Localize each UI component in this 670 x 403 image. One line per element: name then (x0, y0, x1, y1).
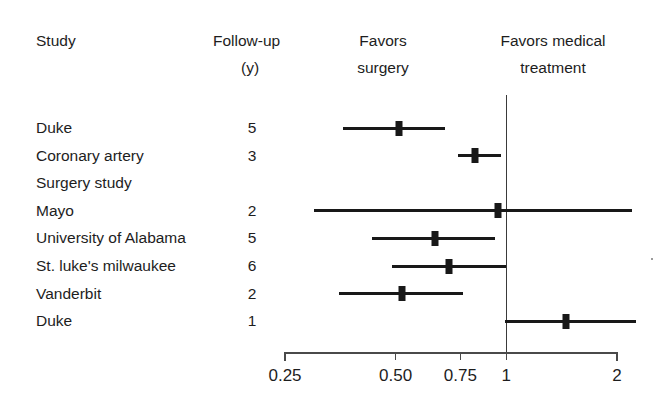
x-axis-tick-label: 0.50 (379, 367, 412, 384)
study-label: Coronary artery (36, 148, 144, 164)
followup-value: 5 (248, 230, 257, 246)
point-estimate-marker (471, 148, 478, 163)
scan-speck (651, 258, 653, 260)
confidence-interval-line (392, 265, 506, 268)
study-label: Duke (36, 313, 72, 329)
point-estimate-marker (398, 286, 405, 301)
x-axis-tick-label: 1 (502, 367, 511, 384)
x-axis-tick (460, 352, 462, 360)
study-label: St. luke's milwaukee (36, 258, 176, 274)
confidence-interval-line (505, 320, 636, 323)
study-label: Duke (36, 120, 72, 136)
point-estimate-marker (395, 121, 402, 136)
confidence-interval-line (458, 154, 501, 157)
study-label: Mayo (36, 203, 74, 219)
column-header-study: Study (36, 33, 76, 49)
annotation-favors-surgery-line2: surgery (357, 60, 409, 76)
x-axis-line (285, 352, 617, 354)
confidence-interval-line (343, 127, 445, 130)
annotation-favors-medical-line1: Favors medical (500, 33, 605, 49)
x-axis-tick (506, 352, 508, 360)
confidence-interval-line (372, 237, 495, 240)
followup-value: 3 (248, 148, 257, 164)
forest-plot-figure: Study Follow-up (y) Favors surgery Favor… (0, 0, 670, 403)
x-axis-tick (395, 352, 397, 360)
study-label: University of Alabama (36, 230, 186, 246)
column-header-followup-unit: (y) (241, 60, 259, 76)
point-estimate-marker (432, 231, 439, 246)
x-axis-tick (284, 352, 286, 361)
confidence-interval-line (339, 292, 463, 295)
followup-value: 6 (248, 258, 257, 274)
followup-value: 5 (248, 120, 257, 136)
annotation-favors-medical-line2: treatment (520, 60, 585, 76)
followup-value: 2 (248, 203, 257, 219)
followup-value: 1 (248, 313, 257, 329)
x-axis-tick-label: 0.75 (444, 367, 477, 384)
point-estimate-marker (446, 259, 453, 274)
column-header-followup: Follow-up (213, 33, 280, 49)
x-axis-tick (616, 352, 618, 361)
x-axis-tick-label: 0.25 (268, 367, 301, 384)
study-label-continuation: Surgery study (36, 175, 132, 191)
point-estimate-marker (495, 203, 502, 218)
followup-value: 2 (248, 286, 257, 302)
x-axis-tick-label: 2 (612, 367, 621, 384)
reference-line-null-effect (506, 95, 508, 352)
annotation-favors-surgery-line1: Favors (359, 33, 406, 49)
point-estimate-marker (562, 314, 569, 329)
study-label: Vanderbit (36, 286, 101, 302)
confidence-interval-line (314, 209, 632, 212)
